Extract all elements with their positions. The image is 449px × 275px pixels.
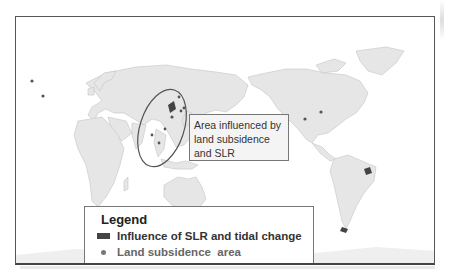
legend-item-subsidence: Land subsidence area [97,244,313,260]
legend-item-label: Influence of SLR and tidal change [117,228,302,244]
legend-item-label: Land subsidence area [117,244,241,260]
callout-line-3: and SLR [194,146,284,160]
australia [164,177,206,209]
south-america [330,155,376,229]
scan-shadow [20,266,435,269]
scan-artifact [440,0,444,40]
callout-line-2: land subsidence [194,132,284,146]
legend-item-slr: Influence of SLR and tidal change [97,228,313,244]
dark-rectangle-icon [97,233,110,239]
gray-dot-icon [101,250,106,255]
legend-box: Legend Influence of SLR and tidal change… [84,206,314,265]
legend-title: Legend [101,212,313,228]
map-frame: Area influenced by land subsidence and S… [15,16,435,265]
callout-line-1: Area influenced by [194,118,284,132]
callout-box: Area influenced by land subsidence and S… [189,114,289,161]
